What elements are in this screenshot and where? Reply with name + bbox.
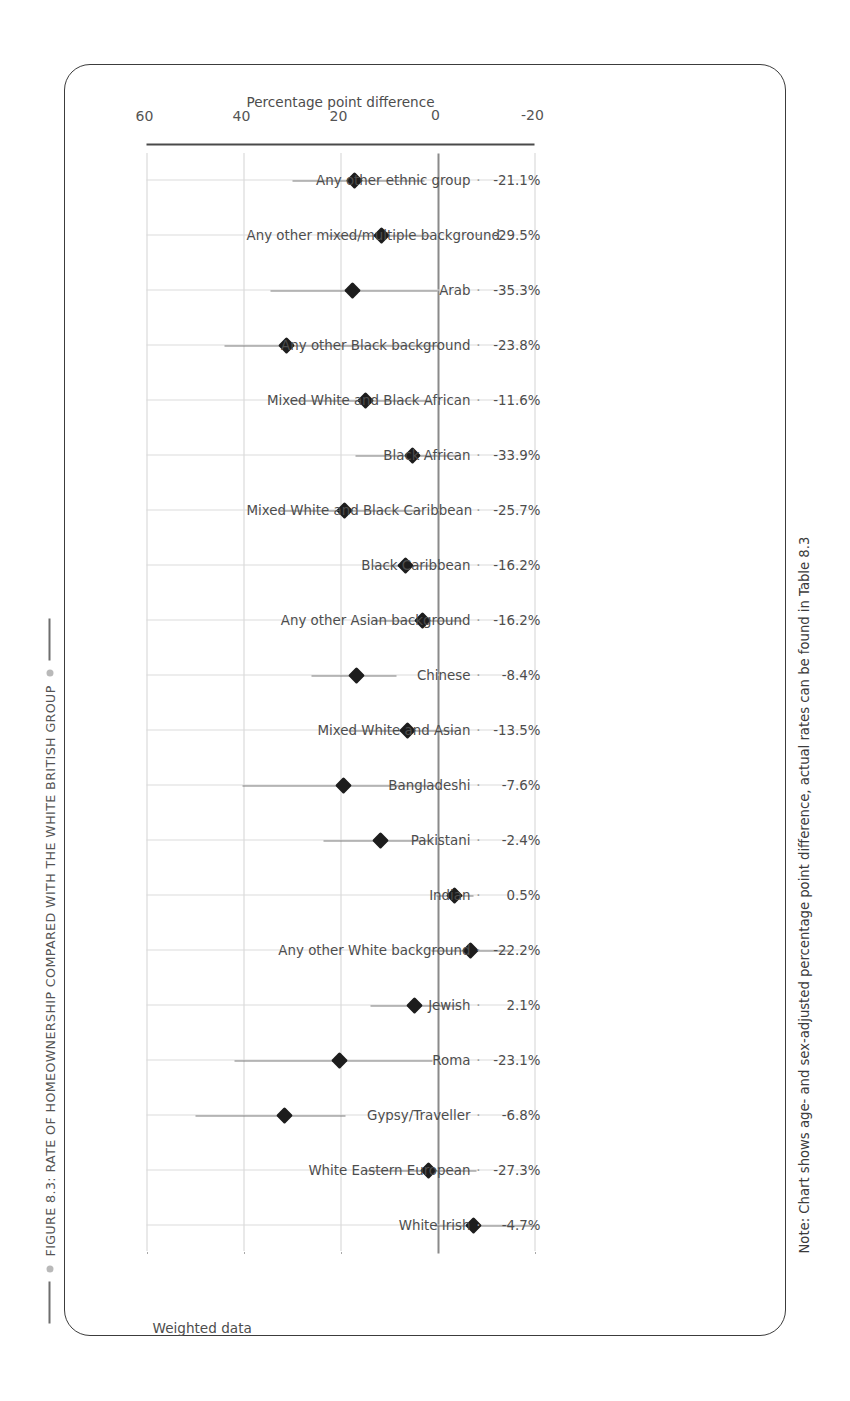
category-name: Mixed White and Asian [246, 723, 470, 738]
label-separator-dot-icon: · [470, 338, 486, 353]
category-value-label: -16.2% [486, 558, 540, 573]
axis-tick-label: 60 [135, 107, 153, 123]
figure-header: FIGURE 8.3: RATE OF HOMEOWNERSHIP COMPAR… [36, 73, 62, 1323]
category-value-label: -22.2% [486, 943, 540, 958]
category-value-label: -13.5% [486, 723, 540, 738]
label-separator-dot-icon: · [470, 613, 486, 628]
category-name: Any other ethnic group [246, 173, 470, 188]
category-name: Jewish [246, 998, 470, 1013]
label-separator-dot-icon: · [470, 393, 486, 408]
category-name: Black African [246, 448, 470, 463]
label-separator-dot-icon: · [470, 778, 486, 793]
category-value-label: -23.8% [486, 338, 540, 353]
category-name: Roma [246, 1053, 470, 1068]
label-separator-dot-icon: · [470, 1053, 486, 1068]
figure-note: Note: Chart shows age- and sex-adjusted … [796, 536, 811, 1253]
category-name: Any other Asian background [246, 613, 470, 628]
category-value-label: -33.9% [486, 448, 540, 463]
data-series-group [146, 153, 534, 1253]
header-rule [48, 1281, 49, 1323]
label-separator-dot-icon: · [470, 833, 486, 848]
category-name: Black Caribbean [246, 558, 470, 573]
label-separator-dot-icon: · [470, 1163, 486, 1178]
category-name: Arab [246, 283, 470, 298]
label-separator-dot-icon: · [470, 228, 486, 243]
category-value-label: -11.6% [486, 393, 540, 408]
header-rule-end [48, 618, 49, 660]
category-name: Indian [246, 888, 470, 903]
category-value-label: -6.8% [486, 1108, 540, 1123]
label-separator-dot-icon: · [470, 723, 486, 738]
label-separator-dot-icon: · [470, 173, 486, 188]
category-name: Chinese [246, 668, 470, 683]
category-name: White Eastern European [246, 1163, 470, 1178]
label-separator-dot-icon: · [470, 668, 486, 683]
value-axis-spine [146, 143, 534, 145]
plot-area [146, 153, 534, 1253]
category-value-label: -8.4% [486, 668, 540, 683]
category-value-label: -21.1% [486, 173, 540, 188]
category-name: Pakistani [246, 833, 470, 848]
axis-title: Percentage point difference [246, 93, 434, 109]
label-separator-dot-icon: · [470, 888, 486, 903]
category-name: Any other mixed/multiple background [246, 228, 470, 243]
label-separator-dot-icon: · [470, 1218, 486, 1233]
label-separator-dot-icon: · [470, 283, 486, 298]
label-separator-dot-icon: · [470, 503, 486, 518]
axis-tick-label: -20 [521, 107, 544, 123]
axis-tick--20: -20 [524, 93, 540, 137]
category-value-label: -35.3% [486, 283, 540, 298]
figure-title: FIGURE 8.3: RATE OF HOMEOWNERSHIP COMPAR… [42, 685, 57, 1256]
label-separator-dot-icon: · [470, 448, 486, 463]
category-name: Any other White background [246, 943, 470, 958]
category-value-label: -27.3% [486, 1163, 540, 1178]
bullet-dot-icon-end [46, 669, 53, 676]
category-value-label: -29.5% [486, 228, 540, 243]
category-value-label: -7.6% [486, 778, 540, 793]
rotated-figure-wrapper: FIGURE 8.3: RATE OF HOMEOWNERSHIP COMPAR… [0, 0, 850, 1401]
category-name: Gypsy/Traveller [246, 1108, 470, 1123]
axis-tick-60: 60 [136, 93, 152, 137]
figure-page: FIGURE 8.3: RATE OF HOMEOWNERSHIP COMPAR… [0, 0, 850, 1401]
category-value-label: -25.7% [486, 503, 540, 518]
category-name: Any other Black background [246, 338, 470, 353]
category-value-label: -4.7% [486, 1218, 540, 1233]
label-separator-dot-icon: · [470, 943, 486, 958]
figure-canvas: FIGURE 8.3: RATE OF HOMEOWNERSHIP COMPAR… [0, 0, 850, 1401]
category-value-label: 2.1% [486, 998, 540, 1013]
bullet-dot-icon [46, 1265, 53, 1272]
category-value-label: -2.4% [486, 833, 540, 848]
category-name: Bangladeshi [246, 778, 470, 793]
category-value-label: -23.1% [486, 1053, 540, 1068]
weighted-data-annotation: Weighted data [152, 1319, 251, 1335]
label-separator-dot-icon: · [470, 1108, 486, 1123]
label-separator-dot-icon: · [470, 998, 486, 1013]
category-name: Mixed White and Black African [246, 393, 470, 408]
category-name: White Irish [246, 1218, 470, 1233]
label-separator-dot-icon: · [470, 558, 486, 573]
category-name: Mixed White and Black Caribbean [246, 503, 470, 518]
category-value-label: 0.5% [486, 888, 540, 903]
category-value-label: -16.2% [486, 613, 540, 628]
